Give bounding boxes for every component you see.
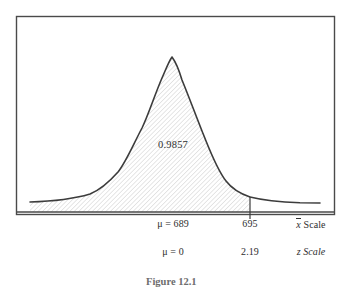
xbar-scale-axis-label: x Scale [283, 219, 339, 230]
figure-caption: Figure 12.1 [146, 276, 197, 287]
z-mean-tick-label: μ = 0 [142, 247, 204, 257]
x-bar-symbol: x [296, 219, 301, 230]
xbar-mean-tick-label: μ = 689 [142, 219, 204, 229]
xbar-scale-name: Scale [304, 219, 326, 230]
xbar-cutoff-tick-label: 695 [232, 219, 268, 229]
z-scale-axis-label: z Scale [283, 247, 339, 257]
z-cutoff-tick-label: 2.19 [232, 247, 268, 257]
shaded-area-probability-label: 0.9857 [150, 140, 196, 151]
